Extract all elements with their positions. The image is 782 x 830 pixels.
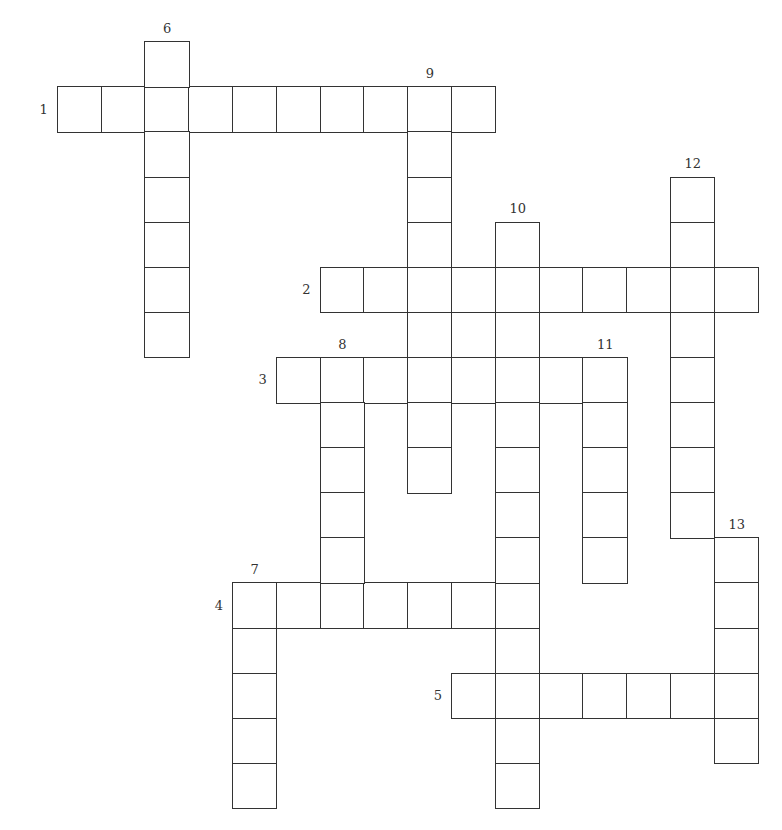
crossword-cell[interactable] <box>582 267 627 314</box>
crossword-cell[interactable] <box>714 582 759 629</box>
crossword-cell[interactable] <box>363 267 408 314</box>
crossword-cell[interactable] <box>495 447 540 494</box>
crossword-cell[interactable] <box>714 628 759 675</box>
crossword-cell[interactable] <box>144 131 189 178</box>
crossword-cell[interactable] <box>407 312 452 359</box>
crossword-cell[interactable] <box>320 267 365 314</box>
crossword-cell[interactable] <box>582 492 627 539</box>
crossword-cell[interactable] <box>495 312 540 359</box>
crossword-cell[interactable] <box>407 357 452 404</box>
crossword-cell[interactable] <box>670 673 715 720</box>
crossword-cell[interactable] <box>582 447 627 494</box>
crossword-cell[interactable] <box>495 537 540 584</box>
crossword-cell[interactable] <box>407 131 452 178</box>
crossword-cell[interactable] <box>363 357 408 404</box>
clue-number-12-down: 12 <box>685 157 702 170</box>
crossword-cell[interactable] <box>495 492 540 539</box>
crossword-cell[interactable] <box>714 718 759 765</box>
crossword-cell[interactable] <box>495 357 540 404</box>
crossword-cell[interactable] <box>539 357 584 404</box>
crossword-cell[interactable] <box>320 447 365 494</box>
crossword-cell[interactable] <box>276 582 321 629</box>
crossword-cell[interactable] <box>363 86 408 133</box>
crossword-cell[interactable] <box>451 86 496 133</box>
crossword-cell[interactable] <box>232 628 277 675</box>
crossword-cell[interactable] <box>451 582 496 629</box>
crossword-cell[interactable] <box>670 267 715 314</box>
crossword-cell[interactable] <box>144 41 189 88</box>
crossword-cell[interactable] <box>582 537 627 584</box>
crossword-cell[interactable] <box>320 537 365 584</box>
crossword-cell[interactable] <box>582 357 627 404</box>
crossword-cell[interactable] <box>276 357 321 404</box>
crossword-cell[interactable] <box>626 673 671 720</box>
clue-number-11-down: 11 <box>597 338 614 351</box>
crossword-cell[interactable] <box>363 582 408 629</box>
crossword-cell[interactable] <box>495 673 540 720</box>
crossword-cell[interactable] <box>714 673 759 720</box>
crossword-cell[interactable] <box>144 177 189 224</box>
crossword-cell[interactable] <box>670 222 715 269</box>
clue-number-4-across: 4 <box>215 599 223 612</box>
crossword-cell[interactable] <box>320 582 365 629</box>
crossword-cell[interactable] <box>407 222 452 269</box>
crossword-cell[interactable] <box>495 402 540 449</box>
crossword-cell[interactable] <box>407 86 452 133</box>
crossword-cell[interactable] <box>714 267 759 314</box>
crossword-cell[interactable] <box>495 718 540 765</box>
crossword-cell[interactable] <box>670 492 715 539</box>
crossword-cell[interactable] <box>451 673 496 720</box>
crossword-cell[interactable] <box>101 86 146 133</box>
crossword-cell[interactable] <box>670 447 715 494</box>
crossword-cell[interactable] <box>539 673 584 720</box>
crossword-cell[interactable] <box>232 582 277 629</box>
crossword-cell[interactable] <box>407 402 452 449</box>
clue-number-6-down: 6 <box>163 22 171 35</box>
crossword-cell[interactable] <box>407 582 452 629</box>
crossword-cell[interactable] <box>714 537 759 584</box>
crossword-cell[interactable] <box>144 222 189 269</box>
crossword-cell[interactable] <box>495 763 540 810</box>
crossword-cell[interactable] <box>495 582 540 629</box>
crossword-cell[interactable] <box>407 447 452 494</box>
crossword-cell[interactable] <box>670 357 715 404</box>
crossword-cell[interactable] <box>670 177 715 224</box>
crossword-cell[interactable] <box>144 86 189 133</box>
crossword-cell[interactable] <box>407 267 452 314</box>
crossword-cell[interactable] <box>188 86 233 133</box>
crossword-cell[interactable] <box>232 673 277 720</box>
crossword-grid: 12345678910111213 <box>0 0 782 830</box>
crossword-cell[interactable] <box>232 718 277 765</box>
crossword-cell[interactable] <box>320 86 365 133</box>
crossword-cell[interactable] <box>626 267 671 314</box>
crossword-cell[interactable] <box>320 357 365 404</box>
crossword-cell[interactable] <box>232 763 277 810</box>
crossword-cell[interactable] <box>144 312 189 359</box>
crossword-cell[interactable] <box>320 402 365 449</box>
crossword-cell[interactable] <box>232 86 277 133</box>
crossword-cell[interactable] <box>670 402 715 449</box>
clue-number-2-across: 2 <box>302 283 310 296</box>
crossword-cell[interactable] <box>144 267 189 314</box>
clue-number-5-across: 5 <box>434 689 442 702</box>
crossword-cell[interactable] <box>57 86 102 133</box>
crossword-cell[interactable] <box>495 222 540 269</box>
crossword-cell[interactable] <box>407 177 452 224</box>
crossword-cell[interactable] <box>582 673 627 720</box>
crossword-cell[interactable] <box>495 267 540 314</box>
crossword-cell[interactable] <box>320 492 365 539</box>
crossword-cell[interactable] <box>670 312 715 359</box>
clue-number-1-across: 1 <box>40 103 48 116</box>
clue-number-3-across: 3 <box>259 373 267 386</box>
clue-number-9-down: 9 <box>426 67 434 80</box>
clue-number-7-down: 7 <box>251 563 259 576</box>
crossword-cell[interactable] <box>451 357 496 404</box>
clue-number-10-down: 10 <box>509 202 526 215</box>
crossword-cell[interactable] <box>495 628 540 675</box>
clue-number-8-down: 8 <box>338 338 346 351</box>
crossword-cell[interactable] <box>539 267 584 314</box>
crossword-cell[interactable] <box>451 267 496 314</box>
clue-number-13-down: 13 <box>728 518 745 531</box>
crossword-cell[interactable] <box>276 86 321 133</box>
crossword-cell[interactable] <box>582 402 627 449</box>
